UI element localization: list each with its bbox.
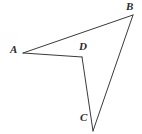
geometry-figure: A B C D (0, 0, 142, 134)
vertex-label-C: C (80, 112, 87, 123)
segment-CB (93, 15, 133, 131)
vertex-label-D: D (79, 41, 87, 52)
segment-AD (23, 53, 82, 57)
vertex-label-B: B (126, 1, 133, 12)
segment-AB (23, 15, 133, 53)
vertex-label-A: A (10, 44, 17, 55)
geometry-canvas (0, 0, 142, 134)
